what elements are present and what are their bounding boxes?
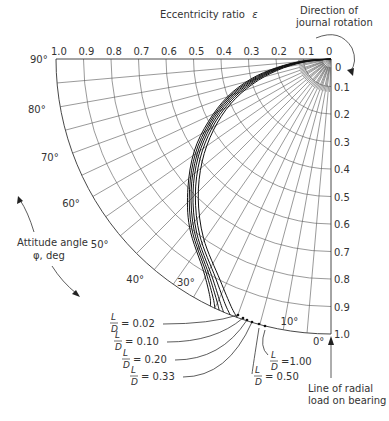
arrowhead-icon <box>237 314 240 317</box>
tick-label-top: 0.4 <box>216 46 232 57</box>
angle-tick-label: 50° <box>91 239 109 250</box>
series-line-ld-1.00 <box>198 59 331 317</box>
leader-line <box>175 320 247 360</box>
angle-tick-label: 90° <box>30 54 48 65</box>
legend-value: =1.00 <box>281 356 312 367</box>
radial-line <box>215 84 320 308</box>
leader-line <box>163 315 238 324</box>
arrowhead-icon <box>251 321 254 324</box>
fraction-numerator: L <box>111 312 116 322</box>
tick-label-right: 0.8 <box>334 274 350 285</box>
tick-label-top: 0.9 <box>79 46 95 57</box>
angle-tick-label: 10° <box>281 316 299 327</box>
tick-label-top: 0.2 <box>271 46 287 57</box>
arrowhead-icon <box>264 325 267 328</box>
radial-line <box>260 86 324 325</box>
tick-label-top: 0.8 <box>106 46 122 57</box>
rotation-text-2: journal rotation <box>295 17 373 28</box>
legend-label-ld-1.00: LD=1.00 <box>263 325 312 372</box>
fraction-numerator: L <box>271 350 276 360</box>
fraction-denominator: D <box>255 377 262 387</box>
tick-label-top: 0 <box>326 46 332 57</box>
tick-label-top: 1.0 <box>51 46 67 57</box>
tick-label-right: 0.9 <box>334 302 350 313</box>
load-text-1: Line of radial <box>308 383 373 394</box>
radial-line <box>194 59 332 297</box>
arrowhead-icon <box>246 319 249 322</box>
fraction-numerator: L <box>123 348 128 358</box>
legend-value: = 0.20 <box>133 354 167 365</box>
legend-value: = 0.50 <box>265 371 299 382</box>
tick-label-top: 0.6 <box>161 46 177 57</box>
fraction-denominator: D <box>271 362 278 372</box>
tick-label-top: 0.1 <box>299 46 315 57</box>
tick-label-right: 0.5 <box>334 192 350 203</box>
legend-label-ld-0.02: LD= 0.02 <box>110 312 239 334</box>
load-text-2: load on bearing <box>308 395 386 406</box>
tick-label-right: 1.0 <box>334 329 350 340</box>
polar-grid <box>56 59 331 334</box>
fraction-numerator: L <box>255 365 260 375</box>
rotation-text-1: Direction of <box>300 5 358 16</box>
legend-value: = 0.33 <box>141 371 175 382</box>
arrowhead-icon <box>258 323 261 326</box>
angle-tick-label: 40° <box>126 274 144 285</box>
tick-label-right: 0 <box>335 62 341 73</box>
tick-label-right: 0.3 <box>334 137 350 148</box>
angle-tick-label: 80° <box>28 104 46 115</box>
tick-label-right: 0.4 <box>334 164 350 175</box>
angle-tick-label: 60° <box>62 198 80 209</box>
series-line-ld-0.50 <box>195 59 331 315</box>
eccentricity-axis-title: Eccentricity ratio ε <box>160 9 258 20</box>
tick-label-top: 0.5 <box>189 46 205 57</box>
fraction-denominator: D <box>115 342 122 352</box>
tick-label-right: 0.2 <box>334 109 350 120</box>
attitude-annotation: Attitude angle φ, deg <box>17 196 88 297</box>
tick-label-right: 0.7 <box>334 247 350 258</box>
angle-tick-label: 0° <box>313 336 324 347</box>
tick-label-right: 0.6 <box>334 219 350 230</box>
tick-label-right: 0.1 <box>334 82 350 93</box>
tick-label-top: 0.7 <box>134 46 150 57</box>
fraction-denominator: D <box>123 360 130 370</box>
leader-line <box>263 330 268 355</box>
eccentricity-ticks-top: 1.00.90.80.70.60.50.40.30.20.10 <box>51 46 332 57</box>
series-line-ld-0.20 <box>191 59 331 310</box>
attitude-title: Attitude angle <box>17 237 88 248</box>
rotation-annotation: Direction of journal rotation <box>295 5 373 76</box>
angle-tick-label: 70° <box>41 152 59 163</box>
eccentricity-ticks-right: 00.10.20.30.40.50.60.70.80.91.0 <box>334 62 350 340</box>
attitude-angle-ticks: 90°80°70°60°50°40°30°10°0° <box>28 54 324 347</box>
radial-line <box>65 66 304 130</box>
angle-tick-label: 30° <box>177 277 195 288</box>
polar-locus-chart: Eccentricity ratio ε 1.00.90.80.70.60.50… <box>0 0 389 421</box>
tick-label-top: 0.3 <box>244 46 260 57</box>
series-curves <box>187 59 331 317</box>
fraction-denominator: D <box>131 377 138 387</box>
fraction-numerator: L <box>115 330 120 340</box>
arrowhead-icon <box>347 68 354 76</box>
legend-value: = 0.10 <box>125 336 159 347</box>
fraction-numerator: L <box>131 365 136 375</box>
arrowhead-icon <box>242 317 245 320</box>
attitude-arrow-up-icon <box>20 200 34 232</box>
legend-value: = 0.02 <box>121 318 155 329</box>
attitude-units: φ, deg <box>33 250 65 261</box>
radial-line <box>173 82 315 285</box>
radial-line <box>307 86 329 333</box>
attitude-arrow-down-icon <box>52 266 77 294</box>
